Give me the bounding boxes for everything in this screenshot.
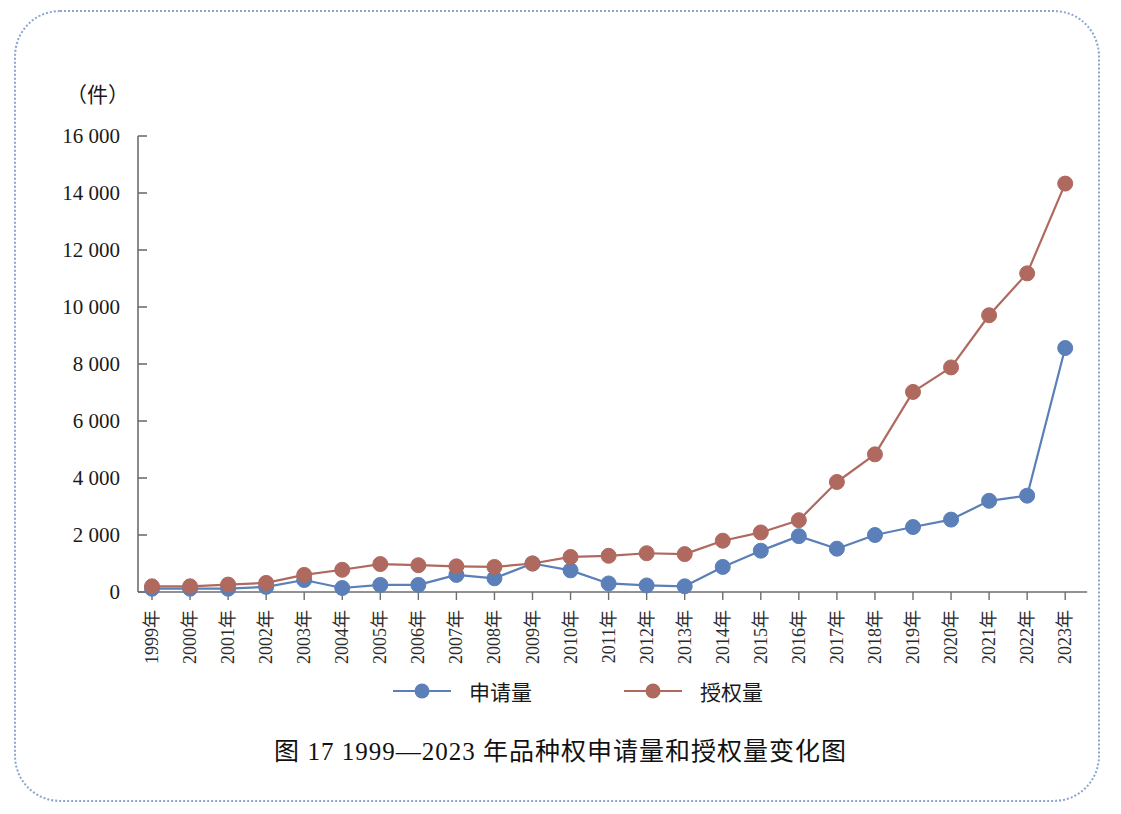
series-data-point <box>487 559 502 574</box>
series-data-point <box>867 528 882 543</box>
series-data-point <box>639 578 654 593</box>
series-data-point <box>335 562 350 577</box>
x-axis-tick-label: 2020年 <box>941 610 961 664</box>
y-axis-tick-label: 12 000 <box>62 238 120 262</box>
series-data-point <box>906 384 921 399</box>
series-data-point <box>335 581 350 596</box>
legend-marker <box>646 684 661 699</box>
series-data-point <box>677 547 692 562</box>
series-data-point <box>982 493 997 508</box>
x-axis-tick-label: 2011年 <box>599 610 619 663</box>
series-data-point <box>867 447 882 462</box>
series-data-point <box>1058 176 1073 191</box>
series-data-point <box>753 543 768 558</box>
x-axis-tick-label: 2001年 <box>218 610 238 664</box>
series-layer <box>145 176 1073 596</box>
x-axis-tick-label: 2000年 <box>180 610 200 664</box>
x-axis-tick-label: 2014年 <box>713 610 733 664</box>
series-line <box>152 184 1065 587</box>
x-axis-tick-label: 2013年 <box>675 610 695 664</box>
line-chart-svg: 02 0004 0006 0008 00010 00012 00014 0001… <box>0 0 1121 814</box>
x-axis-tick-label: 2015年 <box>751 610 771 664</box>
series-data-point <box>944 512 959 527</box>
y-axis-tick-label: 10 000 <box>62 295 120 319</box>
series-data-point <box>259 575 274 590</box>
series-data-point <box>563 563 578 578</box>
series-data-point <box>715 559 730 574</box>
x-axis-tick-label: 2021年 <box>979 610 999 664</box>
series-data-point <box>601 548 616 563</box>
chart-legend[interactable]: 申请量授权量 <box>393 681 763 705</box>
series-data-point <box>297 567 312 582</box>
x-axis-tick-label: 2002年 <box>256 610 276 664</box>
legend-marker <box>415 684 430 699</box>
series-data-point <box>183 579 198 594</box>
series-data-point <box>525 556 540 571</box>
series-data-point <box>1058 341 1073 356</box>
x-axis-tick-label: 2023年 <box>1055 610 1075 664</box>
series-data-point <box>639 546 654 561</box>
x-axis-tick-label: 1999年 <box>142 610 162 664</box>
series-data-point <box>411 558 426 573</box>
chart-figure: （件） 02 0004 0006 0008 00010 00012 00014 … <box>0 0 1121 814</box>
x-axis-tick-label: 2019年 <box>903 610 923 664</box>
series-data-point <box>677 579 692 594</box>
x-axis-tick-label: 2022年 <box>1017 610 1037 664</box>
y-axis-tick-label: 2 000 <box>73 523 120 547</box>
series-data-point <box>601 576 616 591</box>
series-data-point <box>563 549 578 564</box>
series-data-point <box>1020 266 1035 281</box>
y-axis-tick-label: 14 000 <box>62 181 120 205</box>
x-axis-tick-label: 2005年 <box>370 610 390 664</box>
x-axis-tick-label: 2012年 <box>637 610 657 664</box>
series-data-point <box>829 474 844 489</box>
x-axis-tick-label: 2003年 <box>294 610 314 664</box>
x-axis-tick-label: 2009年 <box>523 610 543 664</box>
series-data-point <box>829 541 844 556</box>
series-data-point <box>221 577 236 592</box>
series-data-point <box>715 533 730 548</box>
legend-item-label: 申请量 <box>469 681 532 705</box>
y-axis-tick-label: 6 000 <box>73 409 120 433</box>
x-axis-tick-labels: 1999年2000年2001年2002年2003年2004年2005年2006年… <box>142 610 1075 664</box>
series-data-point <box>373 557 388 572</box>
x-axis-tick-label: 2006年 <box>408 610 428 664</box>
series-data-point <box>906 520 921 535</box>
series-data-point <box>982 308 997 323</box>
x-axis-tick-label: 2007年 <box>446 610 466 664</box>
series-data-point <box>944 360 959 375</box>
series-data-point <box>145 579 160 594</box>
series-data-point <box>411 577 426 592</box>
series-data-point <box>449 559 464 574</box>
series-data-point <box>791 513 806 528</box>
y-axis-tick-label: 4 000 <box>73 466 120 490</box>
legend-item-label: 授权量 <box>700 681 763 705</box>
y-axis: 02 0004 0006 0008 00010 00012 00014 0001… <box>62 124 147 604</box>
y-axis-tick-label: 0 <box>110 580 121 604</box>
y-axis-tick-label: 8 000 <box>73 352 120 376</box>
series-data-point <box>791 529 806 544</box>
x-axis-tick-label: 2010年 <box>561 610 581 664</box>
series-data-point <box>753 525 768 540</box>
x-axis <box>138 592 1087 600</box>
x-axis-tick-label: 2004年 <box>332 610 352 664</box>
x-axis-tick-label: 2018年 <box>865 610 885 664</box>
x-axis-tick-label: 2016年 <box>789 610 809 664</box>
y-axis-tick-label: 16 000 <box>62 124 120 148</box>
x-axis-tick-label: 2017年 <box>827 610 847 664</box>
series-data-point <box>373 577 388 592</box>
x-axis-tick-label: 2008年 <box>484 610 504 664</box>
figure-page: （件） 02 0004 0006 0008 00010 00012 00014 … <box>0 0 1121 814</box>
series-data-point <box>1020 488 1035 503</box>
figure-caption: 图 17 1999—2023 年品种权申请量和授权量变化图 <box>0 731 1121 767</box>
